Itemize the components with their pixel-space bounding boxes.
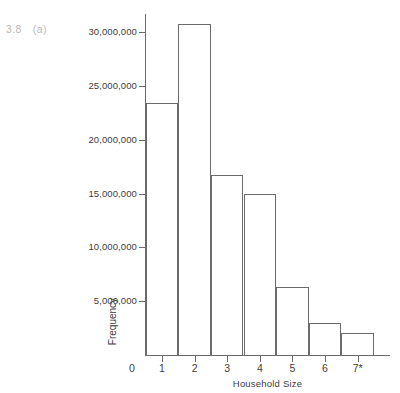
y-axis-title: Frequency [107, 262, 118, 382]
y-axis-tick-label: 20,000,000 [45, 134, 137, 145]
x-axis-tick-label: 6 [313, 362, 337, 374]
histogram-bar [146, 103, 179, 355]
histogram-plot: Frequency Household Size 5,000,00010,000… [0, 0, 400, 393]
x-axis-tick-label: 3 [215, 362, 239, 374]
x-axis-tick-label: 7* [346, 362, 370, 374]
y-axis-tick [139, 32, 146, 33]
x-axis-title: Household Size [145, 378, 390, 389]
x-axis-tick-label: 0 [120, 362, 144, 374]
figure-page: 3.8(a) Frequency Household Size 5,000,00… [0, 0, 400, 393]
x-axis-line [145, 355, 390, 356]
histogram-bar [341, 333, 374, 355]
histogram-bar [178, 24, 211, 355]
x-axis-tick-label: 1 [150, 362, 174, 374]
y-axis-tick-label: 5,000,000 [45, 295, 137, 306]
y-axis-tick-label: 10,000,000 [45, 241, 137, 252]
x-axis-tick-label: 5 [280, 362, 304, 374]
y-axis-tick-label: 15,000,000 [45, 188, 137, 199]
y-axis-tick [139, 86, 146, 87]
histogram-bar [211, 175, 244, 355]
y-axis-title-wrap: Frequency [55, 130, 69, 240]
x-axis-tick-label: 4 [248, 362, 272, 374]
y-axis-tick-label: 25,000,000 [45, 80, 137, 91]
histogram-bar [276, 287, 309, 355]
histogram-bar [244, 194, 277, 356]
y-axis-tick-label: 30,000,000 [45, 26, 137, 37]
histogram-bar [309, 323, 342, 355]
x-axis-tick-label: 2 [183, 362, 207, 374]
